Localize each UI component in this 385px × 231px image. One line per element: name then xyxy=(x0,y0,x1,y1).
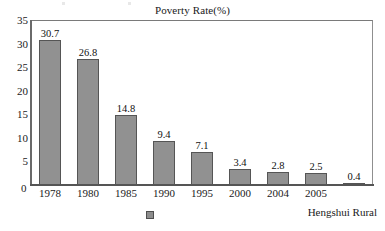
bar-slot: 30.7 xyxy=(31,20,69,185)
bar-1985[interactable] xyxy=(115,115,137,185)
bar-series-9[interactable] xyxy=(343,183,365,185)
bar-slot: 14.8 xyxy=(107,20,145,185)
bar-slot: 26.8 xyxy=(69,20,107,185)
x-axis-tick-1995: 1995 xyxy=(191,187,213,199)
x-axis-tick-2000: 2000 xyxy=(229,187,251,199)
bar-slot: 0.4 xyxy=(335,20,373,185)
legend-color-swatch xyxy=(146,211,154,219)
y-axis-tick-30: 30 xyxy=(2,38,28,50)
y-axis-tick-35: 35 xyxy=(2,14,28,26)
bar-slot: 3.4 xyxy=(221,20,259,185)
x-axis-tick-1985: 1985 xyxy=(115,187,137,199)
bar-value-label: 2.8 xyxy=(271,160,284,171)
bar-1980[interactable] xyxy=(77,59,99,185)
bar-2000[interactable] xyxy=(229,169,251,185)
x-axis-tick-1978: 1978 xyxy=(39,187,61,199)
poverty-rate-bar-chart: Poverty Rate(%) 5101520253035 30.726.814… xyxy=(0,0,385,231)
x-axis-tick-1980: 1980 xyxy=(77,187,99,199)
bar-value-label: 0.4 xyxy=(347,171,360,182)
bar-value-label: 7.1 xyxy=(195,140,208,151)
chart-legend: Hengshui Rural xyxy=(0,205,385,227)
y-axis-tick-10: 10 xyxy=(2,132,28,144)
bar-slot: 9.4 xyxy=(145,20,183,185)
bar-1995[interactable] xyxy=(191,152,213,185)
y-axis-tick-5: 5 xyxy=(2,155,28,167)
bar-value-label: 26.8 xyxy=(79,47,97,58)
bar-2005[interactable] xyxy=(305,173,327,185)
bar-2004[interactable] xyxy=(267,172,289,185)
bar-slot: 7.1 xyxy=(183,20,221,185)
bar-value-label: 2.5 xyxy=(309,161,322,172)
y-axis-origin-label: 0 xyxy=(21,182,27,194)
bar-1978[interactable] xyxy=(39,40,61,185)
x-axis-tick-labels: 19781980198519901995200020042005 xyxy=(31,187,373,203)
bar-value-label: 30.7 xyxy=(41,28,59,39)
bar-1990[interactable] xyxy=(153,141,175,185)
x-axis-tick-1990: 1990 xyxy=(153,187,175,199)
chart-title: Poverty Rate(%) xyxy=(0,4,385,16)
bar-slot: 2.5 xyxy=(297,20,335,185)
y-axis-tick-25: 25 xyxy=(2,61,28,73)
bar-value-label: 14.8 xyxy=(117,103,135,114)
bar-slot: 2.8 xyxy=(259,20,297,185)
y-axis-tick-labels: 5101520253035 xyxy=(0,0,28,231)
y-axis-tick-15: 15 xyxy=(2,108,28,120)
x-axis-tick-2005: 2005 xyxy=(305,187,327,199)
bars-layer: 30.726.814.89.47.13.42.82.50.4 xyxy=(31,20,373,185)
x-axis-tick-2004: 2004 xyxy=(267,187,289,199)
bar-value-label: 3.4 xyxy=(233,157,246,168)
y-axis-tick-20: 20 xyxy=(2,85,28,97)
bar-value-label: 9.4 xyxy=(157,129,170,140)
legend-series-label: Hengshui Rural xyxy=(308,206,377,218)
